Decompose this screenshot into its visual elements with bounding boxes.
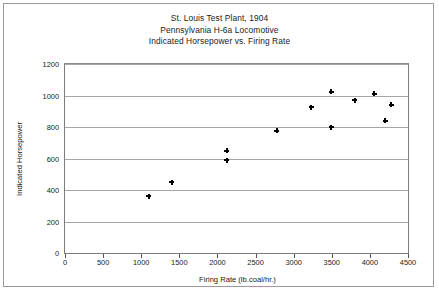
x-axis-tick-mark (141, 254, 142, 258)
x-axis-tick-mark (332, 254, 333, 258)
x-axis-tick-mark (103, 254, 104, 258)
plot-container: Indicated Horsepower Firing Rate (lb.coa… (4, 4, 435, 288)
x-axis-tick-mark (294, 254, 295, 258)
chart-frame: St. Louis Test Plant, 1904 Pennsylvania … (3, 3, 434, 287)
data-point (169, 180, 174, 185)
x-axis-tick-mark (408, 254, 409, 258)
data-point (389, 102, 394, 107)
data-point (372, 91, 377, 96)
y-gridline (65, 127, 408, 128)
y-gridline (65, 190, 408, 191)
y-axis-tick-label: 200 (0, 217, 59, 226)
data-point (224, 148, 229, 153)
data-point (274, 128, 279, 133)
data-point (383, 118, 388, 123)
x-axis-tick-label: 4500 (383, 258, 433, 267)
data-point (146, 194, 151, 199)
y-axis-tick-label: 800 (0, 123, 59, 132)
data-point (224, 158, 229, 163)
x-axis-tick-mark (370, 254, 371, 258)
data-point (329, 89, 334, 94)
data-point (352, 98, 357, 103)
y-gridline (65, 96, 408, 97)
x-axis-label: Firing Rate (lb.coal/hr.) (65, 275, 410, 284)
y-gridline (65, 222, 408, 223)
y-axis-tick-label: 0 (0, 249, 59, 258)
data-point (329, 125, 334, 130)
y-axis-tick-label: 1200 (0, 60, 59, 69)
data-point (309, 105, 314, 110)
y-gridline (65, 64, 408, 65)
y-axis-tick-label: 600 (0, 154, 59, 163)
x-axis-tick-mark (65, 254, 66, 258)
plot-area: Indicated Horsepower Firing Rate (lb.coa… (64, 63, 409, 254)
y-axis-tick-label: 1000 (0, 91, 59, 100)
x-axis-tick-mark (179, 254, 180, 258)
x-axis-tick-mark (256, 254, 257, 258)
y-gridline (65, 159, 408, 160)
y-axis-tick-label: 400 (0, 186, 59, 195)
x-axis-tick-mark (217, 254, 218, 258)
